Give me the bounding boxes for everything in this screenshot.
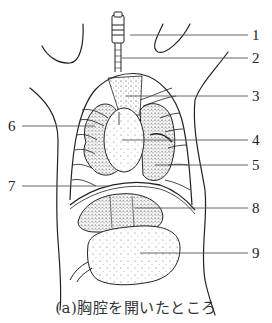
label-1: 1	[252, 28, 260, 43]
right-lung	[140, 104, 175, 181]
label-3: 3	[252, 89, 260, 104]
thoracic-cavity-illustration	[0, 0, 272, 323]
body-right-outline	[194, 52, 228, 315]
anatomy-diagram: 1 2 3 4 5 6 7 8 9 (a)胸腔を開いたところ	[0, 0, 272, 323]
trachea	[112, 12, 124, 72]
thoracic-organs	[84, 104, 175, 181]
label-7: 7	[8, 179, 16, 194]
larynx	[112, 15, 124, 43]
left-forelimb-outline	[42, 24, 83, 63]
label-6: 6	[8, 119, 16, 134]
body-left-outline	[30, 88, 61, 310]
right-forelimb-outline	[155, 24, 190, 52]
label-9: 9	[252, 246, 260, 261]
label-2: 2	[252, 51, 260, 66]
label-4: 4	[252, 133, 260, 148]
label-8: 8	[252, 201, 260, 216]
figure-caption: (a)胸腔を開いたところ	[0, 296, 272, 317]
label-5: 5	[252, 158, 260, 173]
